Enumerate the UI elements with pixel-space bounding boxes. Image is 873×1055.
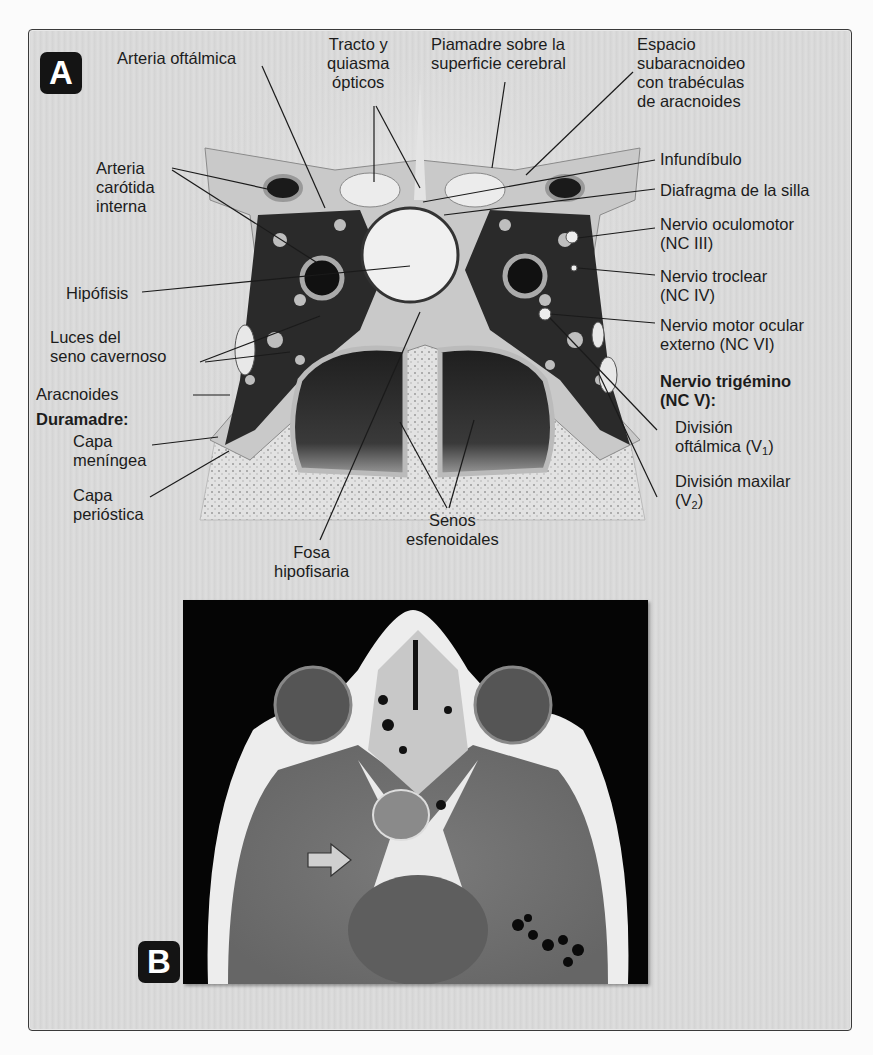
ct-scan-image [183, 600, 648, 984]
label-nervio-trigemino: Nervio trigémino (NC V): [660, 372, 791, 410]
label-diafragma: Diafragma de la silla [660, 181, 809, 200]
label-infundibulo: Infundíbulo [660, 150, 742, 169]
label-senos-esfenoidales: Senos esfenoidales [406, 511, 499, 549]
label-espacio-subaracnoideo: Espacio subaracnoideo con trabéculas de … [637, 35, 745, 111]
label-tracto-quiasma: Tracto y quiasma ópticos [327, 35, 389, 92]
label-fosa-hipofisaria: Fosa hipofisaria [274, 543, 349, 581]
label-nervio-motor-ocular: Nervio motor ocular externo (NC VI) [660, 316, 804, 354]
ct-scan-graphic [183, 600, 648, 984]
label-division-maxilar: División maxilar (V2) [675, 472, 791, 515]
label-arteria-oftalmica: Arteria oftálmica [117, 49, 236, 68]
label-piamadre: Piamadre sobre la superficie cerebral [431, 35, 566, 73]
label-arteria-carotida: Arteria carótida interna [96, 159, 155, 216]
label-luces-seno: Luces del seno cavernoso [50, 328, 167, 366]
label-nervio-oculomotor: Nervio oculomotor (NC III) [660, 215, 794, 253]
label-nervio-troclear: Nervio troclear (NC IV) [660, 267, 767, 305]
label-duramadre: Duramadre: [36, 410, 129, 429]
label-division-oftalmica: División oftálmica (V1) [675, 418, 774, 461]
label-hipofisis: Hipófisis [66, 284, 128, 303]
label-capa-meningea: Capa meníngea [73, 432, 146, 470]
label-capa-periostica: Capa perióstica [73, 486, 144, 524]
label-aracnoides: Aracnoides [36, 385, 119, 404]
panel-b-badge: B [138, 941, 180, 983]
panel-a-badge: A [40, 52, 82, 94]
